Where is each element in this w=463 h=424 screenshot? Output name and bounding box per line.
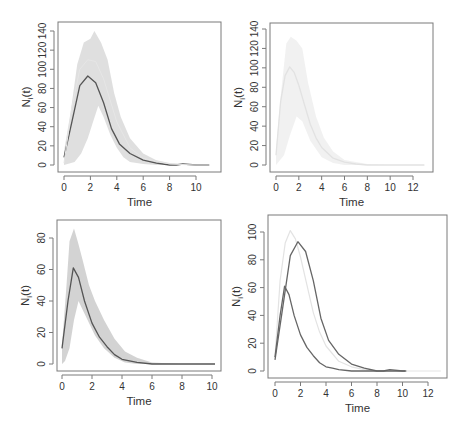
trajectory-envelope	[64, 31, 209, 165]
y-tick-label: 20	[37, 140, 48, 152]
y-tick-label: 60	[249, 101, 260, 113]
y-axis-label: Ni(t)	[19, 285, 34, 306]
x-tick-label: 8	[179, 381, 185, 392]
x-tick-label: 0	[272, 388, 278, 399]
x-axis-label: Time	[339, 196, 364, 208]
x-tick-label: 2	[88, 182, 94, 193]
x-tick-label: 4	[114, 182, 120, 193]
y-tick-label: 140	[249, 20, 260, 37]
series-line-mean-panel-1	[275, 242, 406, 371]
y-axis-label: Ni(t)	[20, 86, 35, 107]
y-tick-label: 60	[37, 102, 48, 114]
y-tick-label: 100	[247, 223, 258, 240]
x-tick-label: 8	[374, 388, 380, 399]
x-tick-label: 0	[61, 182, 67, 193]
y-tick-label: 100	[37, 61, 48, 78]
x-tick-label: 10	[190, 182, 202, 193]
x-tick-label: 0	[273, 182, 279, 193]
y-tick-label: 20	[247, 337, 258, 349]
trajectory-envelope	[62, 229, 215, 364]
x-tick-label: 4	[319, 182, 325, 193]
figure-canvas: 0246810Time020406080100120140Ni(t) 02468…	[0, 0, 463, 424]
x-tick-label: 2	[298, 388, 304, 399]
panel-top-left: 0246810Time020406080100120140Ni(t)	[20, 22, 221, 208]
trajectory-envelope	[276, 37, 424, 165]
x-tick-label: 6	[349, 388, 355, 399]
panel-bottom-right: 024681012Time020406080100Ni(t)	[230, 215, 447, 414]
x-tick-label: 6	[149, 381, 155, 392]
x-tick-label: 2	[89, 381, 95, 392]
y-tick-label: 40	[37, 121, 48, 133]
x-tick-label: 2	[296, 182, 302, 193]
x-axis-label: Time	[127, 196, 152, 208]
y-tick-label: 80	[247, 254, 258, 266]
x-tick-label: 12	[407, 182, 419, 193]
panel-bottom-left: 0246810Time020406080Ni(t)	[19, 220, 221, 407]
y-tick-label: 80	[249, 81, 260, 93]
x-tick-label: 4	[323, 388, 329, 399]
x-tick-label: 8	[365, 182, 371, 193]
y-axis-label: Ni(t)	[232, 87, 247, 108]
y-tick-label: 80	[36, 232, 47, 244]
figure-grid: 0246810Time020406080100120140Ni(t) 02468…	[0, 0, 463, 424]
y-tick-label: 0	[249, 162, 260, 168]
x-tick-label: 4	[119, 381, 125, 392]
x-tick-label: 6	[342, 182, 348, 193]
x-tick-label: 8	[167, 182, 173, 193]
x-tick-label: 10	[385, 182, 397, 193]
y-tick-label: 40	[249, 120, 260, 132]
y-tick-label: 40	[247, 309, 258, 321]
x-axis-label: Time	[345, 402, 370, 414]
y-tick-label: 100	[249, 59, 260, 76]
y-tick-label: 20	[36, 327, 47, 339]
y-tick-label: 40	[36, 295, 47, 307]
y-axis-label: Ni(t)	[230, 286, 245, 307]
y-tick-label: 0	[247, 368, 258, 374]
plot-frame	[268, 215, 447, 378]
y-tick-label: 80	[37, 82, 48, 94]
y-tick-label: 20	[249, 140, 260, 152]
y-tick-label: 60	[36, 264, 47, 276]
x-axis-label: Time	[126, 395, 151, 407]
series-line-mean-panel-2	[275, 231, 441, 371]
series-line-mean-panel-3	[275, 286, 405, 371]
y-tick-label: 0	[37, 162, 48, 168]
y-tick-label: 120	[249, 40, 260, 57]
y-tick-label: 60	[247, 282, 258, 294]
x-tick-label: 10	[206, 381, 218, 392]
y-tick-label: 120	[37, 41, 48, 58]
y-tick-label: 140	[37, 22, 48, 39]
y-tick-label: 0	[36, 361, 47, 367]
x-tick-label: 0	[59, 381, 65, 392]
x-tick-label: 12	[422, 388, 434, 399]
panel-top-right: 024681012Time020406080100120140Ni(t)	[232, 20, 433, 208]
x-tick-label: 6	[140, 182, 146, 193]
x-tick-label: 10	[397, 388, 409, 399]
